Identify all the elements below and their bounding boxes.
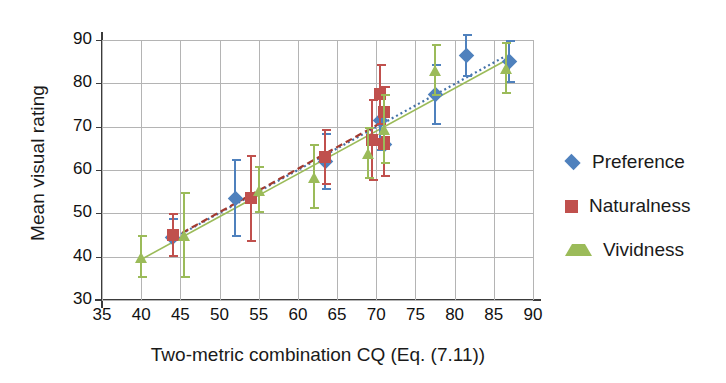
error-bar-cap-naturalness: [381, 112, 390, 114]
error-bar-cap-vividness: [310, 207, 319, 209]
error-bar-cap-naturalness: [247, 155, 256, 157]
error-bar-cap-vividness: [138, 276, 147, 278]
error-bar-cap-vividness: [502, 92, 511, 94]
error-bar-cap-vividness: [365, 177, 374, 179]
error-bar-cap-naturalness: [381, 86, 390, 88]
error-bar-cap-vividness: [310, 144, 319, 146]
error-bar-cap-naturalness: [322, 183, 331, 185]
error-bar-cap-vividness: [432, 94, 441, 96]
error-bar-cap-vividness: [432, 44, 441, 46]
y-tick-label: 90: [48, 29, 92, 49]
x-tick-label: 65: [317, 305, 357, 325]
x-tick-label: 50: [200, 305, 240, 325]
data-point-vividness: [178, 230, 190, 241]
plot-area: [102, 40, 533, 300]
y-tick-label: 80: [48, 72, 92, 92]
data-point-vividness: [253, 185, 265, 196]
y-tick-label: 50: [48, 202, 92, 222]
legend-marker-diamond-icon: [564, 154, 580, 170]
error-bar-cap-vividness: [365, 127, 374, 129]
x-tick-label: 85: [474, 305, 514, 325]
y-tick-label: 70: [48, 116, 92, 136]
error-bar-cap-naturalness: [247, 240, 256, 242]
legend-marker-square-icon: [565, 200, 578, 213]
data-point-naturalness: [167, 229, 179, 241]
legend-item-preference[interactable]: Preference: [565, 140, 725, 184]
data-point-vividness: [135, 252, 147, 263]
error-bar-cap-naturalness: [377, 64, 386, 66]
x-axis-title: Two-metric combination CQ (Eq. (7.11)): [102, 344, 534, 366]
error-bar-cap-vividness: [502, 42, 511, 44]
error-bar-cap-vividness: [255, 166, 264, 168]
legend-label: Naturalness: [589, 195, 690, 217]
error-bar-cap-vividness: [381, 162, 390, 164]
error-bar-cap-preference: [506, 81, 515, 83]
error-bar-cap-vividness: [255, 211, 264, 213]
x-tick-label: 45: [160, 305, 200, 325]
error-bar-cap-naturalness: [169, 213, 178, 215]
error-bar-cap-preference: [463, 34, 472, 36]
legend-marker-triangle-icon: [565, 244, 592, 256]
x-tick-label: 90: [513, 305, 553, 325]
chart-figure: Mean visual rating Two-metric combinatio…: [0, 0, 726, 383]
error-bar-cap-naturalness: [322, 129, 331, 131]
data-point-vividness: [378, 124, 390, 135]
x-tick-label: 75: [395, 305, 435, 325]
gridline-horizontal: [102, 300, 533, 301]
error-bar-cap-preference: [232, 159, 241, 161]
x-tick-label: 55: [239, 305, 279, 325]
trendlines: [102, 40, 533, 300]
y-tick-label: 60: [48, 159, 92, 179]
x-tick-label: 40: [121, 305, 161, 325]
data-point-vividness: [362, 148, 374, 159]
legend-label: Preference: [592, 151, 685, 173]
legend-item-naturalness[interactable]: Naturalness: [565, 184, 725, 228]
error-bar-cap-vividness: [181, 192, 190, 194]
data-point-vividness: [308, 172, 320, 183]
error-bar-cap-naturalness: [169, 255, 178, 257]
y-axis-title: Mean visual rating: [27, 43, 49, 283]
legend: PreferenceNaturalnessVividness: [565, 140, 725, 272]
gridline-vertical: [533, 40, 534, 300]
y-tick-label: 30: [48, 289, 92, 309]
error-bar-cap-naturalness: [381, 175, 390, 177]
data-point-vividness: [429, 65, 441, 76]
error-bar-cap-preference: [232, 235, 241, 237]
error-bar-cap-preference: [169, 218, 178, 220]
legend-item-vividness[interactable]: Vividness: [565, 228, 725, 272]
error-bar-cap-vividness: [181, 276, 190, 278]
error-bar-cap-vividness: [381, 94, 390, 96]
x-tick-label: 60: [278, 305, 318, 325]
data-point-naturalness: [319, 151, 331, 163]
error-bar-cap-preference: [322, 133, 331, 135]
error-bar-cap-vividness: [138, 235, 147, 237]
data-point-vividness: [500, 63, 512, 74]
y-tick-label: 40: [48, 246, 92, 266]
error-bar-cap-naturalness: [369, 179, 378, 181]
error-bar-cap-preference: [432, 123, 441, 125]
x-tick-label: 80: [435, 305, 475, 325]
error-bar-cap-preference: [463, 75, 472, 77]
legend-label: Vividness: [603, 239, 684, 261]
x-tick-label: 70: [356, 305, 396, 325]
error-bar-cap-preference: [322, 188, 331, 190]
